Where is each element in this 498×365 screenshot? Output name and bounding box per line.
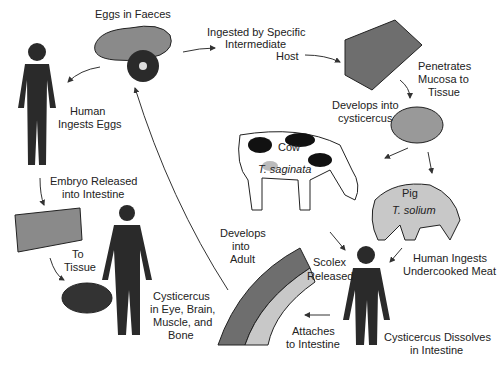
label-embryo-line1: Embryo Released: [50, 175, 137, 188]
human-silhouette-top-left-icon: [18, 43, 56, 165]
arrow: [305, 55, 340, 62]
label-ingested-line3: Host: [276, 50, 299, 63]
label-develops-cyst-line2: cysticercus: [338, 112, 392, 125]
label-attaches-line1: Attaches: [292, 325, 335, 338]
arrow: [68, 67, 100, 82]
tissue-fragment-icon: [15, 208, 82, 252]
label-cow: Cow: [278, 141, 300, 154]
label-cyst-locations-line2: in Eye, Brain,: [150, 303, 215, 316]
label-to-tissue-line1: To: [72, 248, 84, 261]
cysticercus-tissue-icon: [62, 283, 112, 313]
label-t-solium: T. solium: [392, 204, 436, 217]
label-human-ingests-line2: Ingests Eggs: [58, 118, 122, 131]
label-develops-adult-line3: Adult: [230, 253, 255, 266]
faeces-eggs-icon: [95, 26, 172, 82]
label-penetrates-line2: Mucosa to: [418, 73, 469, 86]
label-t-saginata: T. saginata: [258, 163, 311, 176]
label-human-undercooked-line1: Human Ingests: [413, 252, 487, 265]
human-silhouette-bottom-right-icon: [343, 246, 390, 345]
label-penetrates-line3: Tissue: [428, 86, 460, 99]
label-attaches-line2: to Intestine: [286, 338, 340, 351]
label-scolex-line2: Released: [307, 270, 353, 283]
label-eggs-in-faeces: Eggs in Faeces: [95, 8, 171, 21]
label-to-tissue-line2: Tissue: [64, 261, 96, 274]
label-cyst-dissolves-line1: Cysticercus Dissolves: [384, 331, 491, 344]
label-develops-cyst-line1: Develops into: [332, 99, 399, 112]
human-silhouette-center-icon: [102, 205, 152, 335]
label-human-ingests-line1: Human: [70, 105, 105, 118]
label-human-undercooked-line2: Undercooked Meat: [403, 265, 496, 278]
label-pig: Pig: [402, 187, 418, 200]
label-develops-adult-line1: Develops: [220, 227, 266, 240]
label-penetrates-line1: Penetrates: [418, 60, 471, 73]
label-cyst-dissolves-line2: in Intestine: [410, 344, 463, 357]
label-scolex-line1: Scolex: [313, 256, 346, 269]
cysticercus-icon: [391, 107, 443, 143]
label-cyst-locations-line3: Muscle, and: [153, 316, 212, 329]
label-embryo-line2: into Intestine: [62, 188, 124, 201]
intestine-mucosa-icon: [345, 20, 422, 90]
label-develops-adult-line2: into: [232, 240, 250, 253]
arrow: [183, 48, 215, 52]
label-cyst-locations-line1: Cysticercus: [153, 290, 210, 303]
label-cyst-locations-line4: Bone: [168, 329, 194, 342]
